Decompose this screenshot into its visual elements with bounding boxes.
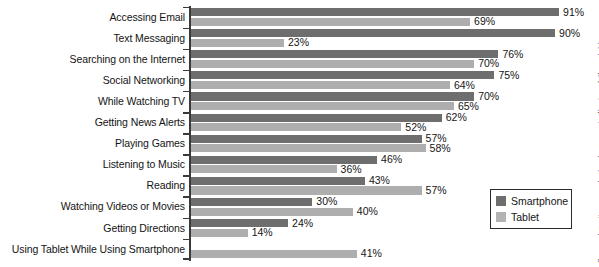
bar-smartphone — [191, 135, 422, 143]
axis-tick — [183, 218, 190, 220]
axis-tick — [183, 112, 190, 114]
bar-value-label: 64% — [454, 81, 475, 90]
bar-smartphone — [191, 177, 365, 185]
legend-label-tablet: Tablet — [511, 211, 539, 223]
axis-tick — [183, 175, 190, 177]
bar-tablet — [191, 250, 357, 258]
axis-tick — [183, 91, 190, 93]
bar-value-label: 65% — [458, 102, 479, 111]
legend-label-smartphone: Smartphone — [511, 195, 568, 207]
bar-value-label: 30% — [316, 197, 337, 206]
bar-smartphone — [191, 92, 474, 100]
category-label: Getting Directions — [103, 218, 185, 239]
axis-tick — [183, 49, 190, 51]
bar-tablet — [191, 123, 401, 131]
bar-value-label: 75% — [498, 71, 519, 80]
legend-item-tablet: Tablet — [496, 210, 566, 224]
category-label: Getting News Alerts — [95, 112, 185, 133]
category-label: Listening to Music — [103, 154, 185, 175]
chart-category-row: Using Tablet While Using Smartphone41% — [0, 239, 599, 260]
axis-tick — [183, 258, 190, 260]
bar-value-label: 41% — [361, 249, 382, 258]
bar-value-label: 40% — [357, 207, 378, 216]
bar-value-label: 91% — [563, 8, 584, 17]
bar-value-label: 36% — [341, 165, 362, 174]
category-label: Playing Games — [115, 133, 185, 154]
bar-tablet — [191, 39, 284, 47]
bar-value-label: 52% — [405, 123, 426, 132]
bar-value-label: 70% — [478, 92, 499, 101]
bar-tablet — [191, 60, 474, 68]
chart-category-row: Getting News Alerts62%52% — [0, 112, 599, 133]
bar-value-label: 62% — [446, 113, 467, 122]
bar-value-label: 90% — [559, 29, 580, 38]
bar-tablet — [191, 186, 422, 194]
bar-value-label: 58% — [430, 144, 451, 153]
axis-tick — [183, 28, 190, 30]
bar-tablet — [191, 229, 248, 237]
category-label: Social Networking — [103, 70, 185, 91]
bar-value-label: 46% — [381, 155, 402, 164]
legend-swatch-tablet — [496, 212, 506, 222]
chart-category-row: Social Networking75%64% — [0, 70, 599, 91]
bar-tablet — [191, 165, 337, 173]
chart-category-row: Searching on the Internet76%70% — [0, 49, 599, 70]
bar-value-label: 24% — [292, 219, 313, 228]
axis-tick — [183, 239, 190, 241]
category-label: Text Messaging — [113, 28, 185, 49]
bar-tablet — [191, 102, 454, 110]
bar-smartphone — [191, 29, 555, 37]
category-label: While Watching TV — [98, 91, 185, 112]
bar-smartphone — [191, 71, 494, 79]
bar-tablet — [191, 18, 470, 26]
bar-smartphone — [191, 219, 288, 227]
bar-value-label: 70% — [478, 59, 499, 68]
axis-tick — [183, 154, 190, 156]
bar-smartphone — [191, 198, 312, 206]
category-label: Using Tablet While Using Smartphone — [12, 239, 185, 260]
chart-category-row: Text Messaging90%23% — [0, 28, 599, 49]
bar-smartphone — [191, 50, 498, 58]
category-label: Searching on the Internet — [70, 49, 185, 70]
bar-value-label: 14% — [252, 228, 273, 237]
category-label: Watching Videos or Movies — [61, 196, 185, 217]
chart-category-row: Playing Games57%58% — [0, 133, 599, 154]
bar-smartphone — [191, 114, 442, 122]
bar-value-label: 76% — [502, 50, 523, 59]
bar-smartphone — [191, 8, 559, 16]
legend-item-smartphone: Smartphone — [496, 194, 566, 208]
bar-value-label: 57% — [426, 186, 447, 195]
bar-tablet — [191, 81, 450, 89]
axis-tick — [183, 133, 190, 135]
axis-tick — [183, 196, 190, 198]
source-credit: Source: http://www.marketingcharts.com/o… — [586, 0, 599, 267]
chart-legend: Smartphone Tablet — [490, 189, 572, 229]
chart-root: Accessing Email91%69%Text Messaging90%23… — [0, 0, 599, 267]
chart-category-row: Accessing Email91%69% — [0, 7, 599, 28]
chart-category-row: While Watching TV70%65% — [0, 91, 599, 112]
category-label: Reading — [147, 175, 185, 196]
legend-swatch-smartphone — [496, 196, 506, 206]
axis-tick — [183, 70, 190, 72]
bar-value-label: 69% — [474, 17, 495, 26]
category-label: Accessing Email — [109, 7, 185, 28]
axis-tick — [183, 7, 190, 9]
bar-value-label: 23% — [288, 38, 309, 47]
bar-tablet — [191, 144, 426, 152]
chart-category-row: Listening to Music46%36% — [0, 154, 599, 175]
bar-tablet — [191, 208, 353, 216]
bar-value-label: 43% — [369, 176, 390, 185]
